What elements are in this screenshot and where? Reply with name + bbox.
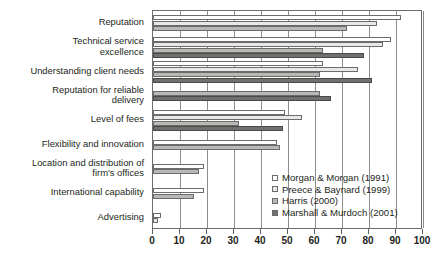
category-label: Technical service excellence: [0, 36, 144, 57]
bar: [153, 67, 358, 72]
bar: [153, 15, 401, 20]
category-label: Reputation for reliable delivery: [0, 85, 144, 106]
bar-group: [153, 37, 421, 59]
bar: [153, 78, 372, 83]
bar-group: [153, 15, 421, 31]
bar: [153, 121, 239, 126]
legend-item: Harris (2000): [272, 195, 442, 207]
bar: [153, 91, 320, 96]
bar-group: [153, 61, 421, 83]
x-tick-label: 10: [173, 235, 184, 246]
x-tick: [422, 229, 423, 234]
bar-group: [153, 110, 421, 132]
bar: [153, 115, 302, 120]
bar: [153, 188, 204, 193]
legend-item: Morgan & Morgan (1991): [272, 172, 442, 184]
x-tick-label: 90: [389, 235, 400, 246]
bar: [153, 213, 161, 218]
x-tick-label: 0: [149, 235, 155, 246]
category-label: Level of fees: [0, 114, 144, 124]
x-tick-label: 80: [362, 235, 373, 246]
bar-group: [153, 140, 421, 151]
bar: [153, 126, 283, 131]
x-tick-label: 70: [335, 235, 346, 246]
x-tick: [179, 229, 180, 234]
bar: [153, 218, 158, 223]
bar: [153, 21, 377, 26]
bar: [153, 169, 199, 174]
legend-label: Morgan & Morgan (1991): [282, 172, 389, 184]
bar-chart: ReputationTechnical service excellenceUn…: [0, 0, 444, 260]
x-tick-label: 40: [254, 235, 265, 246]
category-label: International capability: [0, 187, 144, 197]
bar: [153, 53, 364, 58]
category-label: Reputation: [0, 17, 144, 27]
x-tick: [206, 229, 207, 234]
category-label: Advertising: [0, 212, 144, 222]
bar: [153, 42, 383, 47]
bar: [153, 37, 391, 42]
category-label: Location and distribution of firm's offi…: [0, 158, 144, 179]
legend-item: Preece & Baynard (1999): [272, 184, 442, 196]
x-axis-tick-labels: 0102030405060708090100: [152, 235, 422, 251]
legend-swatch-icon: [272, 198, 278, 204]
x-tick: [368, 229, 369, 234]
bar: [153, 48, 323, 53]
bar: [153, 26, 347, 31]
x-tick: [233, 229, 234, 234]
legend-swatch-icon: [272, 210, 278, 216]
x-tick: [341, 229, 342, 234]
x-tick: [152, 229, 153, 234]
legend-label: Harris (2000): [282, 195, 338, 207]
category-label: Flexibility and innovation: [0, 139, 144, 149]
legend-swatch-icon: [272, 175, 278, 181]
legend-item: Marshall & Murdoch (2001): [272, 207, 442, 219]
chart-legend: Morgan & Morgan (1991)Preece & Baynard (…: [272, 172, 442, 218]
bar: [153, 110, 285, 115]
x-tick: [314, 229, 315, 234]
x-tick-label: 100: [414, 235, 431, 246]
x-tick: [287, 229, 288, 234]
bar: [153, 164, 204, 169]
category-label: Understanding client needs: [0, 66, 144, 76]
bar: [153, 96, 331, 101]
bar: [153, 145, 280, 150]
bar-group: [153, 91, 421, 102]
bar: [153, 61, 323, 66]
bar: [153, 194, 194, 199]
x-tick-label: 30: [227, 235, 238, 246]
bar: [153, 140, 277, 145]
legend-label: Preece & Baynard (1999): [282, 184, 390, 196]
x-tick-label: 50: [281, 235, 292, 246]
bar: [153, 72, 320, 77]
x-tick: [395, 229, 396, 234]
x-tick-label: 20: [200, 235, 211, 246]
x-tick: [260, 229, 261, 234]
x-tick-label: 60: [308, 235, 319, 246]
legend-label: Marshall & Murdoch (2001): [282, 207, 398, 219]
category-axis-labels: ReputationTechnical service excellenceUn…: [0, 6, 148, 228]
legend-swatch-icon: [272, 186, 278, 192]
